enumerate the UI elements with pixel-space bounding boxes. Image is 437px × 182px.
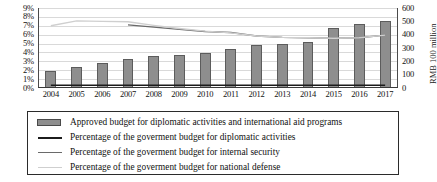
legend-item[interactable]: Percentage of the goverment budget for i…: [28, 145, 280, 160]
right-axis-title-text: RMB 100 million: [428, 24, 437, 84]
right-axis-tick-label: 200: [402, 57, 414, 66]
x-axis-tick-label: 2007: [115, 90, 141, 99]
right-axis-line: [397, 8, 398, 88]
x-axis-tick-label: 2016: [347, 90, 373, 99]
x-axis-tick-label: 2009: [167, 90, 193, 99]
legend-key-line: [38, 137, 62, 139]
plot-area: [38, 8, 398, 88]
legend-item[interactable]: Percentage of the goverment budget for n…: [28, 160, 280, 175]
legend-key-line: [38, 167, 62, 168]
chart-container: 0%1%2%3%4%5%6%7%8%9% 0100200300400500600…: [0, 0, 437, 182]
left-axis-tick-label: 6%: [2, 30, 34, 39]
x-axis-tick-label: 2004: [38, 90, 64, 99]
left-axis-tick-label: 4%: [2, 48, 34, 57]
legend-label: Approved budget for diplomatic activitie…: [70, 117, 342, 128]
line-series-layer: [38, 8, 398, 88]
x-axis-tick-label: 2010: [192, 90, 218, 99]
right-axis-tick-label: 600: [402, 4, 414, 13]
legend-key-line-light: [37, 160, 63, 175]
legend-key-line-mid: [37, 145, 63, 160]
left-axis-tick-label: 5%: [2, 39, 34, 48]
legend-item[interactable]: Percentage of the goverment budget for d…: [28, 130, 295, 145]
x-axis-tick-label: 2011: [218, 90, 244, 99]
x-axis-tick-label: 2014: [295, 90, 321, 99]
legend-key-bar: [37, 115, 63, 130]
line-series: [51, 21, 385, 38]
legend-key-line: [38, 152, 62, 153]
chart-legend: Approved budget for diplomatic activitie…: [27, 111, 399, 175]
x-axis-tick-label: 2006: [89, 90, 115, 99]
right-axis-tick-label: 300: [402, 44, 414, 53]
legend-label: Percentage of the goverment budget for i…: [70, 147, 280, 158]
legend-label: Percentage of the goverment budget for d…: [70, 132, 295, 143]
right-axis-tick-label: 500: [402, 17, 414, 26]
left-axis-line: [38, 8, 39, 88]
legend-label: Percentage of the goverment budget for n…: [70, 162, 280, 173]
right-axis-title: RMB 100 million: [419, 0, 437, 100]
right-axis-tick-label: 100: [402, 70, 414, 79]
x-axis-tick-label: 2013: [269, 90, 295, 99]
left-axis-tick-label: 3%: [2, 57, 34, 66]
left-axis-tick-label: 0%: [2, 84, 34, 93]
right-axis-tick-label: 0: [402, 84, 406, 93]
legend-item[interactable]: Approved budget for diplomatic activitie…: [28, 115, 342, 130]
x-axis-tick-label: 2017: [372, 90, 398, 99]
x-axis-tick-label: 2008: [141, 90, 167, 99]
legend-swatch-bar: [37, 119, 61, 126]
x-axis-tick-label: 2012: [244, 90, 270, 99]
x-axis-tick-label: 2005: [64, 90, 90, 99]
left-axis-tick-label: 8%: [2, 12, 34, 21]
left-axis-tick-label: 9%: [2, 4, 34, 13]
left-axis-tick-label: 2%: [2, 66, 34, 75]
right-axis-tick-label: 400: [402, 30, 414, 39]
legend-key-line-dark: [37, 130, 63, 145]
left-axis-tick-label: 7%: [2, 21, 34, 30]
left-axis-tick-label: 1%: [2, 75, 34, 84]
bottom-axis-line: [38, 87, 398, 88]
x-axis-tick-label: 2015: [321, 90, 347, 99]
